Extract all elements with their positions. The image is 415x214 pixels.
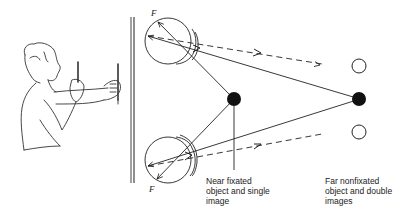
near-object bbox=[227, 92, 241, 106]
fovea-label-bottom: F bbox=[149, 184, 155, 194]
fovea-label-top: F bbox=[151, 8, 157, 18]
near-object-caption: Near fixated object and single image bbox=[206, 176, 270, 206]
person-illustration bbox=[21, 43, 120, 150]
double-image-bottom bbox=[352, 125, 366, 139]
wall-line bbox=[131, 17, 134, 183]
far-object bbox=[352, 92, 366, 106]
top-eye bbox=[145, 18, 198, 64]
double-image-top bbox=[352, 59, 366, 73]
far-object-caption: Far nonfixated object and double images bbox=[325, 176, 392, 206]
